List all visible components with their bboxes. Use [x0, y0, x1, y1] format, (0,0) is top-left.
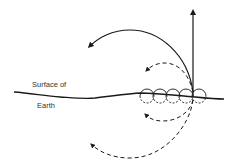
solid-arc-arrow	[90, 30, 193, 92]
surface-label-line2: Earth	[37, 101, 55, 110]
lower-dashed-arc-large-arrow	[92, 100, 193, 158]
surface-label-line1: Surface of	[32, 80, 66, 89]
wave-circles	[140, 89, 206, 103]
